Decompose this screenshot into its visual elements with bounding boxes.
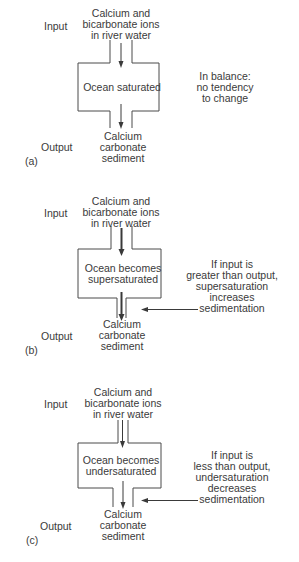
input-label: Input — [44, 399, 67, 410]
output-description: Calcium carbonate sediment — [100, 509, 147, 542]
input-description: Calcium and bicarbonate ions in river wa… — [84, 387, 161, 420]
input-flow-arrow-icon — [120, 420, 125, 448]
undersaturation-note: If input is less than output, undersatur… — [193, 450, 270, 505]
pointer-arrow-icon — [141, 498, 198, 503]
output-label: Output — [40, 521, 72, 532]
ocean-state-label: Ocean becomes undersaturated — [83, 455, 159, 477]
diagram-panel-c: Input Calcium and bicarbonate ions in ri… — [0, 0, 299, 562]
panel-label: (c) — [26, 535, 38, 546]
output-flow-arrow-icon — [121, 481, 126, 509]
